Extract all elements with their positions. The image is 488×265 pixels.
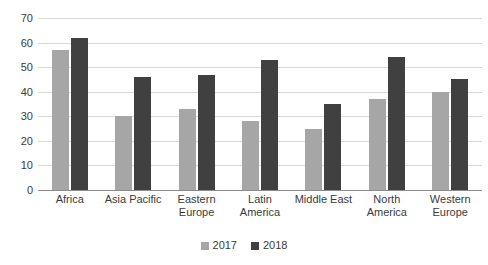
bar-group [101, 18, 164, 190]
y-axis-tick-label: 40 [21, 86, 33, 97]
y-axis-tick-label: 60 [21, 37, 33, 48]
bar-2018-western-europe[interactable] [451, 79, 468, 190]
bar-group [165, 18, 228, 190]
y-axis-tick-label: 70 [21, 13, 33, 24]
bar-group [38, 18, 101, 190]
bar-2018-middle-east[interactable] [324, 104, 341, 190]
bar-2017-asia-pacific[interactable] [115, 116, 132, 190]
legend-label: 2017 [213, 240, 237, 251]
bar-group [228, 18, 291, 190]
bar-group [292, 18, 355, 190]
bar-chart: 706050403020100 AfricaAsia PacificEaster… [0, 0, 488, 265]
y-axis-tick-label: 20 [21, 135, 33, 146]
x-axis-tick-label: Latin America [228, 193, 291, 219]
y-axis-tick-label: 10 [21, 160, 33, 171]
bar-2017-eastern-europe[interactable] [179, 109, 196, 190]
legend-swatch-icon [201, 242, 209, 250]
x-axis-tick-label: Western Europe [419, 193, 482, 219]
x-axis-tick-label: Middle East [292, 193, 355, 219]
x-axis-tick-label: Asia Pacific [101, 193, 164, 219]
legend-item-2018[interactable]: 2018 [251, 240, 287, 251]
x-axis-tick-label: North America [355, 193, 418, 219]
x-axis-tick-label: Eastern Europe [165, 193, 228, 219]
bar-2018-latin-america[interactable] [261, 60, 278, 190]
y-axis: 706050403020100 [0, 0, 38, 190]
x-axis-tick-label: Africa [38, 193, 101, 219]
bar-2017-north-america[interactable] [369, 99, 386, 190]
bar-group [419, 18, 482, 190]
bar-2017-latin-america[interactable] [242, 121, 259, 190]
y-axis-tick-label: 0 [27, 185, 33, 196]
bar-2018-eastern-europe[interactable] [198, 75, 215, 190]
plot-area: 706050403020100 AfricaAsia PacificEaster… [0, 0, 488, 232]
bar-2017-middle-east[interactable] [305, 129, 322, 190]
bar-2018-north-america[interactable] [388, 57, 405, 190]
chart-legend: 20172018 [0, 240, 488, 251]
x-axis-line [38, 190, 482, 191]
bars-layer [38, 18, 482, 190]
bar-2018-africa[interactable] [71, 38, 88, 190]
y-axis-tick-label: 30 [21, 111, 33, 122]
bar-2017-western-europe[interactable] [432, 92, 449, 190]
legend-swatch-icon [251, 242, 259, 250]
bar-2018-asia-pacific[interactable] [134, 77, 151, 190]
x-axis-labels: AfricaAsia PacificEastern EuropeLatin Am… [38, 193, 482, 219]
bar-2017-africa[interactable] [52, 50, 69, 190]
y-axis-tick-label: 50 [21, 62, 33, 73]
bar-group [355, 18, 418, 190]
legend-label: 2018 [263, 240, 287, 251]
legend-item-2017[interactable]: 2017 [201, 240, 237, 251]
